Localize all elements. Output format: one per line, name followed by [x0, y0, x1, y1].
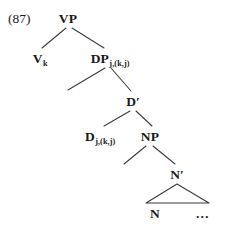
tree-node-dbar: D′ [126, 95, 140, 109]
node-label-dp: DP [91, 51, 109, 66]
nbar-expansion-triangle [146, 184, 209, 203]
branch-np-to-nbar [153, 146, 175, 164]
node-subscript-dp: j,(k,j) [109, 59, 129, 68]
branch-vp-to-dp [72, 28, 104, 48]
branch-vp-to-v [42, 28, 66, 48]
tree-node-ellipsis: … [195, 207, 210, 221]
branch-dp-to-dbar [111, 68, 131, 91]
branch-dbar-to-d [104, 111, 130, 126]
node-label-dbar: D [126, 94, 136, 109]
node-label-v: V [33, 51, 43, 66]
node-prime-dbar: ′ [136, 94, 140, 109]
node-label-nbar: N [170, 167, 180, 182]
tree-node-nbar: N′ [170, 168, 184, 182]
node-subscript-v: k [43, 59, 48, 68]
tree-node-d: Dj,(k,j) [85, 130, 115, 144]
abbreviation-triangle [146, 184, 209, 203]
node-label-n: N [150, 206, 160, 221]
node-label-d: D [85, 129, 95, 144]
branch-dbar-to-np [136, 111, 152, 126]
node-subscript-d: j,(k,j) [95, 137, 115, 146]
tree-node-np: NP [141, 130, 159, 144]
tree-node-n: N [150, 207, 160, 221]
branch-dp-to-spec [68, 68, 105, 90]
tree-node-dp: DPj,(k,j) [91, 52, 130, 66]
node-label-np: NP [141, 129, 159, 144]
tree-branch-lines [0, 0, 225, 230]
syntax-tree-figure: (87) VPVkDPj,(k,j)D′Dj,(k,j)NPN′N… [0, 0, 225, 230]
node-prime-nbar: ′ [180, 167, 184, 182]
tree-node-v: Vk [33, 52, 48, 66]
node-label-vp: VP [59, 11, 77, 26]
branch-np-to-spec [124, 146, 146, 164]
tree-node-vp: VP [59, 12, 77, 26]
